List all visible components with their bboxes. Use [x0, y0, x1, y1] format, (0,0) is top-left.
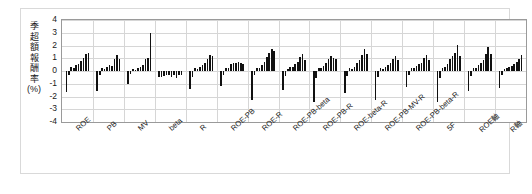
bar: [442, 68, 444, 71]
bar: [235, 63, 237, 71]
bar: [116, 55, 118, 71]
bar: [168, 71, 170, 75]
gridline-horizontal: [62, 84, 526, 85]
bar: [119, 59, 121, 71]
plot-area: [61, 19, 527, 123]
bar: [230, 64, 232, 71]
bar: [385, 67, 387, 71]
bar: [166, 71, 168, 75]
bar: [161, 71, 163, 77]
gridline-category-separator: [464, 20, 465, 122]
gridline-category-separator: [279, 20, 280, 122]
bar: [473, 68, 475, 71]
bar: [181, 71, 183, 75]
bar: [233, 63, 235, 71]
bar: [73, 68, 75, 71]
bar: [447, 64, 449, 71]
bar: [457, 45, 459, 71]
bar: [480, 63, 482, 71]
bar: [361, 55, 363, 71]
bar: [346, 71, 348, 76]
bar: [452, 56, 454, 71]
bar: [411, 68, 413, 71]
bar: [66, 71, 68, 92]
bar: [145, 59, 147, 71]
bar: [240, 63, 242, 71]
bar: [132, 69, 134, 71]
y-axis-tick-label: 3: [52, 28, 57, 36]
bar: [266, 57, 268, 71]
y-axis-tick-label: -3: [49, 104, 57, 112]
bar: [328, 59, 330, 71]
bar: [96, 71, 98, 91]
bar: [302, 54, 304, 71]
bar: [333, 58, 335, 71]
y-axis-tick-label: -4: [49, 117, 57, 125]
bar: [78, 64, 80, 71]
gridline-category-separator: [309, 20, 310, 122]
bar: [444, 67, 446, 71]
gridline-category-separator: [124, 20, 125, 122]
y-axis-tick-label: 2: [52, 41, 57, 49]
bar: [68, 71, 70, 75]
bar: [485, 54, 487, 71]
bar: [238, 62, 240, 71]
bar: [508, 67, 510, 71]
bar: [375, 71, 377, 100]
gridline-category-separator: [93, 20, 94, 122]
y-axis-tick-label: 1: [52, 53, 57, 61]
bar: [163, 71, 165, 76]
bar: [380, 68, 382, 71]
bar: [202, 65, 204, 71]
bar: [176, 71, 178, 78]
bar: [289, 67, 291, 71]
bar: [439, 71, 441, 78]
bar: [292, 67, 294, 71]
bar: [223, 71, 225, 75]
bar: [320, 68, 322, 71]
bar: [499, 71, 501, 88]
bar: [516, 62, 518, 71]
bar: [299, 57, 301, 71]
bar: [209, 55, 211, 71]
bar: [449, 59, 451, 71]
bar: [264, 62, 266, 71]
bar: [504, 69, 506, 71]
bar: [487, 47, 489, 71]
bar: [114, 59, 116, 71]
gridline-horizontal: [62, 33, 526, 34]
bar: [85, 54, 87, 71]
bar: [80, 61, 82, 71]
bar: [268, 53, 270, 71]
bar: [109, 65, 111, 71]
bar: [271, 49, 273, 71]
bar: [173, 71, 175, 75]
gridline-category-separator: [495, 20, 496, 122]
bar: [197, 69, 199, 71]
y-axis-title: 季超額報酬率(%): [27, 21, 41, 131]
bar: [416, 66, 418, 71]
bar: [304, 60, 306, 71]
bar: [437, 71, 439, 102]
bar: [207, 59, 209, 71]
bar: [475, 68, 477, 71]
bar: [192, 71, 194, 77]
x-axis-tick-labels: ROEPBMVbetaRROE-PBROE-RROE-PB-betaROE-PB…: [61, 124, 527, 184]
y-axis-tick-label: 4: [52, 15, 57, 23]
bar: [256, 68, 258, 71]
y-axis-tick-labels: 43210-1-2-3-4: [43, 17, 57, 122]
bar: [259, 68, 261, 71]
bar: [426, 55, 428, 71]
bar: [251, 71, 253, 100]
bar: [330, 56, 332, 71]
bar: [511, 66, 513, 71]
bar: [147, 58, 149, 71]
y-axis-tick-label: -1: [49, 79, 57, 87]
bar: [199, 67, 201, 71]
bar: [359, 60, 361, 71]
bar: [408, 71, 410, 75]
bar: [111, 66, 113, 71]
bar: [150, 33, 152, 71]
bar: [377, 71, 379, 77]
gridline-category-separator: [186, 20, 187, 122]
